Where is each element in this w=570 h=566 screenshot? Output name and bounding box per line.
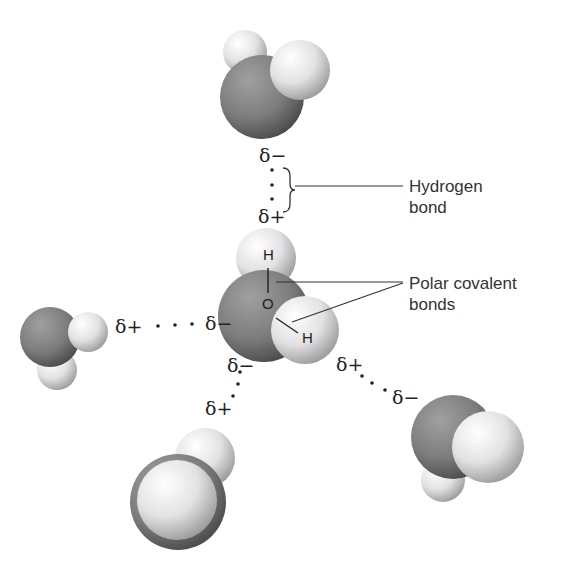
right-water-molecule (411, 395, 524, 502)
charge-bottom-minus: δ− (227, 356, 254, 375)
charge-top-plus: δ+ (258, 207, 285, 226)
left-water-molecule (20, 307, 108, 390)
polar-covalent-callout: Polar covalent bonds (409, 273, 517, 315)
charge-left-minus: δ− (205, 314, 232, 333)
atom-label-oxygen: O (262, 296, 274, 311)
bottom-water-molecule (130, 428, 235, 550)
polar-covalent-callout-line1: Polar covalent (409, 273, 517, 294)
hydrogen-bond-callout-line2: bond (409, 197, 483, 218)
atom-label-h-top: H (263, 247, 274, 262)
top-water-molecule (220, 30, 330, 139)
charge-bottom-plus: δ+ (205, 399, 232, 418)
charge-right-minus: δ− (392, 388, 419, 407)
charge-left-plus: δ+ (115, 317, 142, 336)
hydrogen-bond-callout-line1: Hydrogen (409, 176, 483, 197)
polar-covalent-callout-line2: bonds (409, 294, 517, 315)
hydrogen-bond-callout: Hydrogen bond (409, 176, 483, 218)
water-hydrogen-bond-diagram: H O H δ− δ+ δ+ δ− δ− δ+ δ+ δ− Hydrogen b… (0, 0, 570, 566)
charge-top-minus: δ− (259, 146, 286, 165)
central-water-molecule (218, 228, 339, 364)
charge-right-plus: δ+ (336, 355, 363, 374)
atom-label-h-bottom: H (302, 330, 313, 345)
